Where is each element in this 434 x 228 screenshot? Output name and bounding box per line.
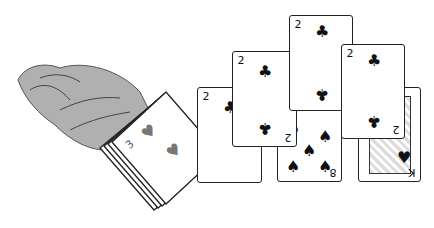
card-two-of-clubs-4: 2 ♣ ♣ 2 (341, 44, 405, 139)
club-icon: ♣ (258, 64, 272, 80)
card-dealing-illustration: ♥ ♥ 3 2 ♣ ♠ ♠ ♠ ♠ ♠ 8 ♥ K 2 ♣ ♣ 2 2 ♣ ♣ … (0, 0, 434, 228)
card-two-of-clubs-2: 2 ♣ ♣ 2 (232, 51, 297, 147)
spade-icon: ♠ (286, 159, 300, 175)
club-icon: ♣ (315, 86, 329, 102)
club-icon: ♣ (367, 53, 381, 69)
club-icon: ♣ (315, 24, 329, 40)
heart-icon: ♥ (397, 150, 411, 166)
spade-icon: ♠ (318, 129, 332, 145)
spade-icon: ♠ (302, 143, 316, 159)
club-icon: ♣ (367, 113, 381, 129)
club-icon: ♣ (258, 120, 272, 136)
